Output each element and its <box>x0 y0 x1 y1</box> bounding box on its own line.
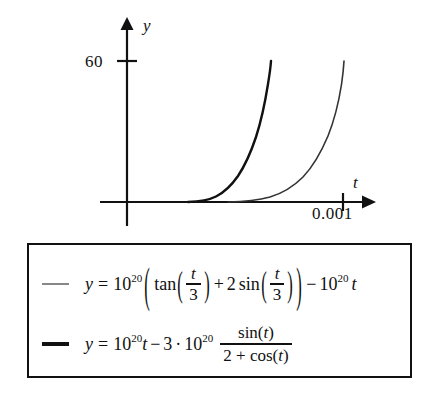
eq1-variable-y: y <box>85 275 93 293</box>
x-axis-label: t <box>353 174 358 191</box>
eq1-coefficient-2: 2 <box>227 275 236 293</box>
eq1-frac2-denominator: 3 <box>270 285 285 303</box>
eq1-frac2-numerator: t <box>272 265 283 283</box>
eq2-fraction: sin(t) 2 + cos(t) <box>220 324 291 363</box>
eq1-base: 10 <box>113 275 131 293</box>
legend-entry-2: y = 1020 t − 3 · 1020 <box>29 315 410 373</box>
y-tick-label-60: 60 <box>85 53 103 70</box>
legend-entry-1: y = 1020 ( tan ( t 3 ) + <box>29 255 410 313</box>
figure-root: y t 60 0.001 y = 1020 ( tan ( t <box>0 0 432 402</box>
x-axis-arrowhead <box>362 196 376 209</box>
plot-area: y t 60 0.001 <box>0 0 432 238</box>
eq2-multiply-dot: · <box>175 335 181 353</box>
eq2-base-2: 10 <box>184 335 202 353</box>
eq1-exponent: 20 <box>131 273 142 284</box>
plot-svg <box>0 0 432 238</box>
eq2-variable-t: t <box>142 335 147 353</box>
eq2-variable-y: y <box>85 335 93 353</box>
eq1-equals: = <box>98 275 108 293</box>
x-tick-label-0001: 0.001 <box>312 205 353 222</box>
eq2-base: 10 <box>113 335 131 353</box>
eq2-coefficient-3: 3 <box>163 335 172 353</box>
eq1-close-paren-outer: ) <box>296 259 302 309</box>
eq1-tan: tan <box>154 275 176 293</box>
eq1-variable-t: t <box>351 275 356 293</box>
legend-swatch-thin-line-icon <box>42 283 69 285</box>
eq2-exponent-2: 20 <box>202 333 213 344</box>
legend-swatch-thick-line-icon <box>42 342 69 346</box>
eq1-power-10-20-b: 1020 <box>319 275 348 293</box>
eq1-base-2: 10 <box>319 275 337 293</box>
y-axis-label: y <box>143 17 151 34</box>
eq2-power-10-20: 1020 <box>113 335 142 353</box>
legend-box: y = 1020 ( tan ( t 3 ) + <box>27 243 412 378</box>
eq2-exponent: 20 <box>131 333 142 344</box>
eq2-power-10-20-b: 1020 <box>184 335 213 353</box>
eq1-fraction-1: t 3 <box>186 265 201 302</box>
curve-series-1 <box>228 61 344 202</box>
eq1-sin: sin <box>239 275 260 293</box>
eq2-frac-denominator: 2 + cos(t) <box>220 345 291 364</box>
eq1-minus: − <box>306 275 316 293</box>
eq2-frac-numerator: sin(t) <box>235 324 277 343</box>
eq1-frac1-denominator: 3 <box>186 285 201 303</box>
y-axis-arrowhead <box>121 17 134 30</box>
eq1-fraction-2: t 3 <box>270 265 285 302</box>
eq1-power-10-20: 1020 <box>113 275 142 293</box>
eq2-equals: = <box>98 335 108 353</box>
eq1-close-paren-1: ) <box>204 266 210 301</box>
eq1-open-paren-2: ( <box>261 266 267 301</box>
eq1-close-paren-2: ) <box>288 266 294 301</box>
eq2-minus: − <box>150 335 160 353</box>
curve-series-2 <box>188 61 271 202</box>
eq1-open-paren-outer: ( <box>144 259 150 309</box>
eq1-open-paren-1: ( <box>177 266 183 301</box>
legend-equation-1: y = 1020 ( tan ( t 3 ) + <box>85 265 410 302</box>
legend-equation-2: y = 1020 t − 3 · 1020 <box>85 324 410 363</box>
eq1-exponent-2: 20 <box>337 273 348 284</box>
eq1-plus: + <box>214 275 224 293</box>
eq1-frac1-numerator: t <box>188 265 199 283</box>
